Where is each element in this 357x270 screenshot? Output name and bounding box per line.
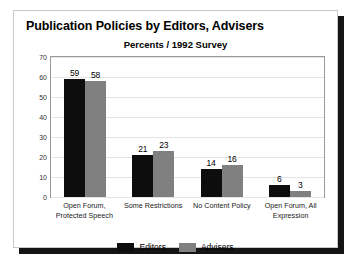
bar-pair: 14 16 [201,165,243,197]
category-label-3: Open Forum, AllExpression [256,201,325,222]
bar-value-label: 23 [159,140,168,150]
legend-swatch-icon [179,243,196,252]
bar-pair: 59 58 [64,79,106,197]
y-tick-label-0: 0 [43,194,47,201]
legend-swatch-icon [117,243,134,252]
gridline-0: 0 [51,197,324,198]
plot-area: 70 60 50 40 30 20 10 0 [50,56,325,198]
bar-group-some-restrictions: 21 23 [119,57,187,197]
legend-label: Advisers [201,242,234,252]
chart-subtitle: Percents / 1992 Survey [14,39,337,50]
y-tick-label-70: 70 [39,54,47,61]
chart-figure: Publication Policies by Editors, Adviser… [0,0,357,270]
y-tick-label-50: 50 [39,94,47,101]
chart-title: Publication Policies by Editors, Adviser… [26,19,264,33]
y-tick-label-40: 40 [39,114,47,121]
bar-pair: 6 3 [269,185,311,197]
bar-editors[interactable]: 21 [132,155,153,197]
category-label-0: Open Forum,Protected Speech [50,201,119,222]
bar-advisers[interactable]: 3 [290,191,311,197]
bar-advisers[interactable]: 23 [153,151,174,197]
bar-value-label: 14 [206,158,215,168]
bar-pair: 21 23 [132,151,174,197]
bar-value-label: 58 [91,70,100,80]
y-tick-label-30: 30 [39,134,47,141]
bar-advisers[interactable]: 58 [85,81,106,197]
chart-legend: Editors Advisers [14,242,337,252]
chart-card: Publication Policies by Editors, Adviser… [13,10,338,248]
bar-editors[interactable]: 14 [201,169,222,197]
category-label-1: Some Restrictions [119,201,188,222]
bar-editors[interactable]: 59 [64,79,85,197]
bar-value-label: 6 [277,174,282,184]
category-label-2: No Content Policy [188,201,257,222]
bar-group-no-content-policy: 14 16 [188,57,256,197]
category-axis-labels: Open Forum,Protected Speech Some Restric… [50,201,325,222]
bar-value-label: 16 [227,154,236,164]
bar-group-open-forum-all-expression: 6 3 [256,57,324,197]
bar-group-open-forum-protected-speech: 59 58 [51,57,119,197]
legend-item-advisers[interactable]: Advisers [179,242,234,252]
legend-item-editors[interactable]: Editors [117,242,165,252]
bar-groups: 59 58 21 23 [51,57,324,197]
bar-value-label: 21 [138,144,147,154]
y-tick-label-10: 10 [39,174,47,181]
y-tick-label-60: 60 [39,74,47,81]
bar-value-label: 3 [298,180,303,190]
bar-editors[interactable]: 6 [269,185,290,197]
y-tick-label-20: 20 [39,154,47,161]
bar-advisers[interactable]: 16 [222,165,243,197]
bar-value-label: 59 [70,68,79,78]
legend-label: Editors [139,242,165,252]
